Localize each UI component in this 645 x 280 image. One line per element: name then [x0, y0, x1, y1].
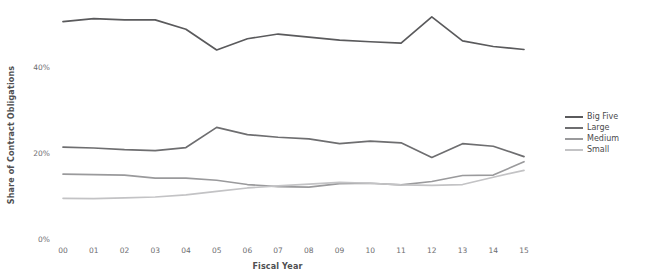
- x-axis-tick-label: 07: [265, 246, 291, 255]
- x-axis-tick-label: 02: [111, 246, 137, 255]
- legend-line-swatch: [565, 127, 583, 129]
- legend-item[interactable]: Small: [565, 145, 643, 155]
- x-axis-tick-label: 08: [296, 246, 322, 255]
- chart-legend: Big FiveLargeMediumSmall: [565, 112, 643, 156]
- legend-item[interactable]: Big Five: [565, 112, 643, 122]
- legend-line-swatch: [565, 149, 583, 151]
- x-axis-tick-label: 14: [480, 246, 506, 255]
- x-axis-tick-label: 03: [142, 246, 168, 255]
- x-axis-tick-label: 10: [357, 246, 383, 255]
- x-axis-tick-label: 00: [50, 246, 76, 255]
- legend-item[interactable]: Large: [565, 123, 643, 133]
- series-line: [63, 127, 524, 157]
- x-axis-title: Fiscal Year: [0, 262, 555, 271]
- x-axis-tick-label: 12: [419, 246, 445, 255]
- series-line: [63, 170, 524, 198]
- x-axis-tick-label: 09: [327, 246, 353, 255]
- legend-item-label: Small: [587, 145, 609, 155]
- legend-item[interactable]: Medium: [565, 134, 643, 144]
- x-axis-tick-label: 15: [511, 246, 537, 255]
- x-axis-tick-label: 06: [234, 246, 260, 255]
- x-axis-tick-label: 01: [81, 246, 107, 255]
- x-axis-tick-label: 13: [450, 246, 476, 255]
- legend-line-swatch: [565, 116, 583, 118]
- x-axis-tick-label: 04: [173, 246, 199, 255]
- x-axis-tick-label: 05: [204, 246, 230, 255]
- line-chart: Share of Contract Obligations 0%20%40% 0…: [0, 0, 645, 280]
- x-axis-tick-label: 11: [388, 246, 414, 255]
- series-line: [63, 17, 524, 50]
- series-line: [63, 162, 524, 187]
- plot-area: [0, 0, 645, 280]
- legend-line-swatch: [565, 138, 583, 140]
- legend-item-label: Medium: [587, 134, 619, 144]
- legend-item-label: Big Five: [587, 112, 618, 122]
- legend-item-label: Large: [587, 123, 610, 133]
